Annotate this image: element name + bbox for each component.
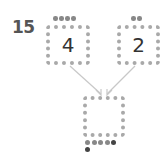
arrow-right-line (107, 66, 135, 94)
dot (85, 140, 90, 145)
arrows-diagram (0, 0, 168, 166)
dots-bottom-row2 (85, 147, 90, 152)
dots-bottom-row1 (85, 140, 116, 145)
dot (85, 147, 90, 152)
dot (111, 140, 116, 145)
dot (105, 140, 110, 145)
answer-box[interactable] (83, 96, 125, 137)
dot (98, 140, 103, 145)
dot (92, 140, 97, 145)
